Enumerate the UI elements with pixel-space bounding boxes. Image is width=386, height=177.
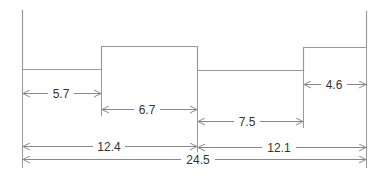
dim-label: 7.5 [239,115,256,129]
dim-label: 12.1 [267,141,291,155]
extension-lines [23,48,367,169]
dim-label: 24.5 [186,153,210,167]
dim-label: 6.7 [139,103,156,117]
dimension-diagram: 5.7 6.7 4.6 7.5 12.4 12.1 24.5 [0,0,386,177]
dim-label: 5.7 [53,87,70,101]
dim-label: 4.6 [326,78,343,92]
step-profile [23,10,367,71]
dimension-lines [23,85,366,160]
dim-label: 12.4 [97,140,121,154]
